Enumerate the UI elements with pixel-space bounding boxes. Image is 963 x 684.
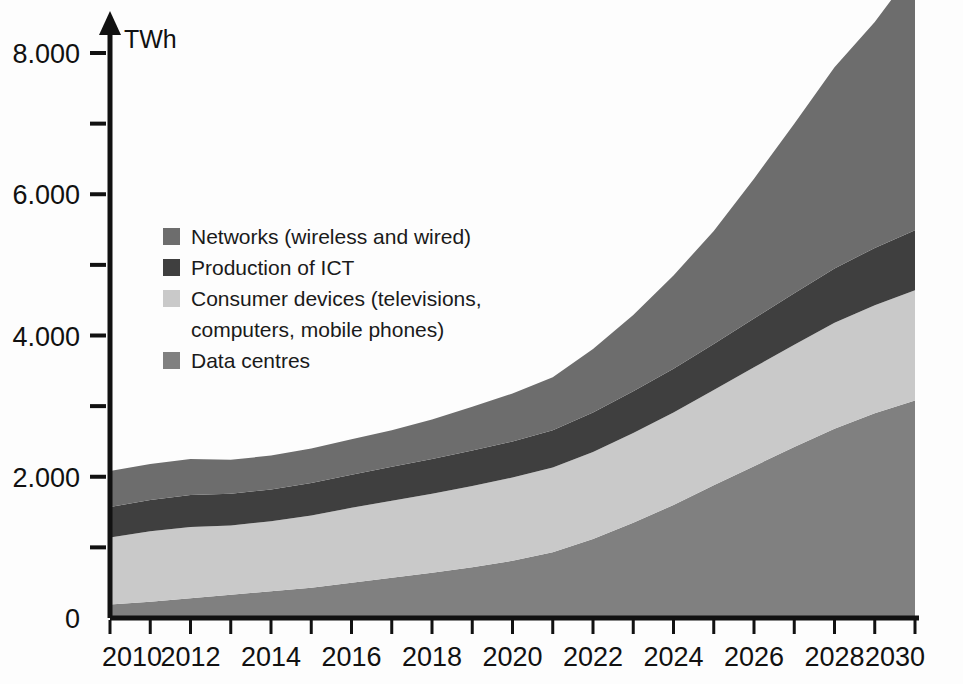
x-tick-label: 2020	[482, 642, 542, 672]
y-tick-label: 8.000	[12, 39, 80, 69]
x-tick-label: 2022	[563, 642, 623, 672]
legend-swatch	[163, 290, 180, 307]
x-tick-label: 2028	[804, 642, 864, 672]
legend-label-continuation: computers, mobile phones)	[191, 318, 444, 341]
legend-swatch	[163, 259, 180, 276]
y-tick-label: 4.000	[12, 322, 80, 352]
y-axis-unit-label: TWh	[124, 25, 177, 53]
x-tick-label: 2030	[865, 642, 925, 672]
legend-label: Consumer devices (televisions,	[191, 287, 482, 310]
y-tick-label: 6.000	[12, 180, 80, 210]
x-axis-ticks	[110, 620, 915, 634]
stacked-area-chart: 02.0004.0006.0008.000 201020122014201620…	[0, 0, 963, 684]
chart-canvas: 02.0004.0006.0008.000 201020122014201620…	[0, 0, 963, 684]
x-tick-label: 2026	[724, 642, 784, 672]
x-tick-label: 2012	[160, 642, 220, 672]
legend-swatch	[163, 352, 180, 369]
x-tick-label: 2014	[241, 642, 301, 672]
legend-label: Data centres	[191, 349, 310, 372]
x-tick-label: 2024	[643, 642, 703, 672]
x-tick-label: 2010	[102, 642, 162, 672]
x-tick-label: 2016	[321, 642, 381, 672]
y-tick-label: 0	[65, 604, 80, 634]
legend-label: Networks (wireless and wired)	[191, 225, 471, 248]
legend-swatch	[163, 228, 180, 245]
x-tick-label: 2018	[402, 642, 462, 672]
legend-label: Production of ICT	[191, 256, 355, 279]
y-tick-label: 2.000	[12, 463, 80, 493]
